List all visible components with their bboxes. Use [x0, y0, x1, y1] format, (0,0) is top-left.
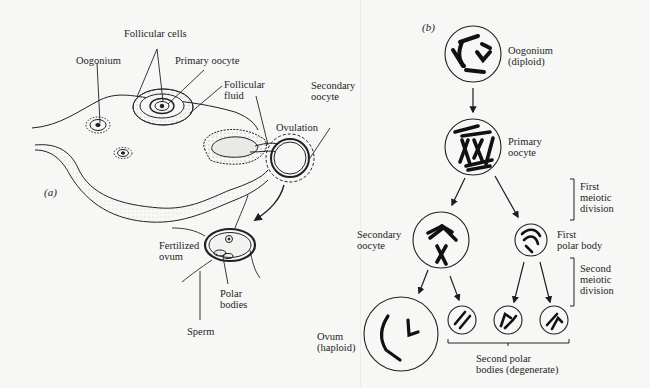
label-ovum: Ovum(haploid): [317, 331, 356, 353]
label-oogonium-b: Oogonium(diploid): [508, 45, 553, 67]
label-primary-oocyte-b: Primaryoocyte: [508, 136, 542, 158]
label-follicular-fluid: Follicularfluid: [224, 79, 265, 101]
leader-lines-a: [97, 49, 330, 320]
label-follicular-cells: Follicular cells: [124, 28, 187, 39]
primary-follicle: [133, 89, 193, 125]
panel-a-tag: (a): [44, 187, 57, 198]
label-fertilized-ovum: Fertilizedovum: [159, 240, 199, 262]
label-ovulation: Ovulation: [276, 122, 318, 133]
ruptured-follicle: [204, 129, 278, 164]
label-secondary-oocyte-a: Secondaryoocyte: [311, 80, 355, 102]
oogonium-follicle: [86, 117, 110, 133]
label-first-meiotic-division: Firstmeioticdivision: [580, 181, 614, 214]
first-meiotic-division-bracket: [570, 179, 574, 220]
meiosis-arrows: [419, 88, 550, 302]
ovulation-to-fertilization-arrow: [255, 185, 284, 220]
small-follicle: [114, 148, 132, 159]
second-polar-bodies-bracket: [448, 339, 569, 343]
second-polar-body-3: [540, 306, 568, 334]
label-second-polar-bodies: Second polarbodies (degenerate): [476, 353, 559, 375]
secondary-oocyte-ovulated: [266, 134, 314, 182]
second-polar-body-1: [448, 306, 476, 334]
second-polar-body-2: [494, 306, 522, 334]
secondary-oocyte-cell: [413, 212, 469, 268]
label-first-polar-body: Firstpolar body: [557, 229, 602, 251]
label-second-meiotic-division: Secondmeioticdivision: [580, 263, 614, 296]
chromosomes: [382, 36, 562, 360]
label-sperm: Sperm: [187, 326, 214, 337]
label-polar-bodies: Polarbodies: [220, 288, 247, 310]
label-primary-oocyte-a: Primary oocyte: [175, 55, 239, 66]
panel-b-tag: (b): [422, 22, 435, 33]
label-oogonium-a: Oogonium: [76, 55, 121, 66]
fertilized-ovum: [205, 229, 255, 261]
label-secondary-oocyte-b: Secondaryoocyte: [357, 229, 401, 251]
second-meiotic-division-bracket: [570, 258, 574, 306]
